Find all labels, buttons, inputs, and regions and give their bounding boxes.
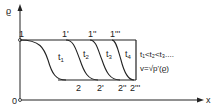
curve-label-t4: t4 — [125, 49, 132, 60]
time-ordering-annotation: t₁<t₂<t₃.... — [140, 50, 174, 59]
top-point-label: 1'' — [88, 29, 97, 39]
x-axis-label: x — [206, 95, 211, 105]
curve-t3 — [90, 40, 120, 80]
top-point-label: 1 — [19, 29, 24, 39]
x-axis-arrow-icon — [197, 98, 204, 103]
velocity-formula-annotation: v=√p'(ϱ) — [140, 64, 169, 73]
bottom-point-label: 2''' — [130, 83, 140, 93]
curve-label-t1: t1 — [58, 52, 65, 63]
origin-label: 0 — [12, 96, 17, 106]
top-point-label: 1' — [62, 29, 69, 39]
y-axis-arrow-icon — [18, 4, 23, 11]
traffic-density-diagram: ϱ x 0 1 1' 1'' 1''' 2 2' 2'' 2''' t1 t2 … — [0, 0, 213, 112]
bottom-point-label: 2'' — [118, 83, 127, 93]
y-axis-label: ϱ — [6, 6, 11, 16]
bottom-point-label: 2' — [97, 83, 104, 93]
top-point-label: 1''' — [110, 29, 120, 39]
curve-t4 — [112, 40, 134, 80]
curve-label-t2: t2 — [83, 49, 90, 60]
bottom-point-label: 2 — [76, 83, 81, 93]
curve-t2 — [66, 40, 98, 80]
origin-marker — [19, 99, 22, 102]
curve-label-t3: t3 — [106, 49, 113, 60]
